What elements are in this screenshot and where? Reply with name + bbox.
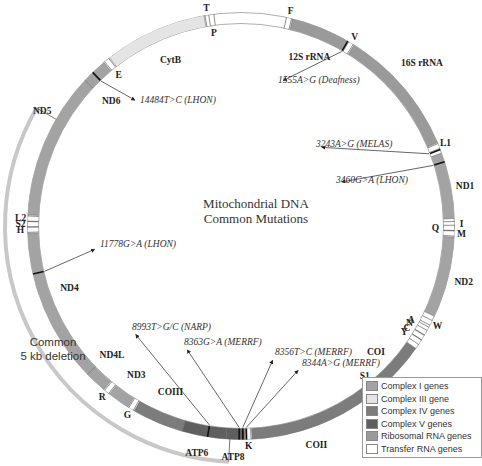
legend: Complex I genesComplex III geneComplex I… bbox=[362, 377, 482, 458]
mutation-label: 8356T>C (MERRF) bbox=[275, 347, 352, 358]
trna-e bbox=[108, 63, 111, 66]
trna-label-i: I bbox=[460, 219, 464, 229]
legend-item-trna: Transfer RNA genes bbox=[366, 443, 478, 456]
trna-f bbox=[286, 23, 290, 24]
gene-label-12s-rrna: 12S rRNA bbox=[288, 52, 330, 62]
gene-label-nd4: ND4 bbox=[60, 283, 79, 293]
trna-label-m: M bbox=[457, 229, 466, 239]
gene-label-nd6: ND6 bbox=[102, 96, 121, 106]
legend-item-complex-v: Complex V genes bbox=[366, 418, 478, 431]
gene-label-atp6: ATP6 bbox=[185, 448, 208, 458]
trna-label-v: V bbox=[351, 32, 358, 42]
gene-label-cytb: CytB bbox=[160, 55, 182, 65]
legend-label: Complex III gene bbox=[381, 394, 449, 404]
trna-label-l1: L1 bbox=[440, 138, 451, 148]
gene-label-nd4l: ND4L bbox=[100, 350, 125, 360]
trna-v bbox=[346, 47, 350, 49]
gene-segment-cytb bbox=[113, 21, 205, 62]
trna-label-f: F bbox=[288, 6, 294, 16]
trna-label-g: G bbox=[124, 410, 132, 420]
deletion-label-line1: Common bbox=[30, 336, 77, 348]
trna-r bbox=[108, 386, 111, 389]
gene-segment-coii bbox=[252, 390, 369, 434]
diagram-title-line2: Common Mutations bbox=[204, 211, 308, 226]
mutation-label: 8363G>A (MERRF) bbox=[184, 337, 262, 348]
gene-label-nd5: ND5 bbox=[33, 106, 52, 116]
gene-label-nd3: ND3 bbox=[127, 370, 146, 380]
trna-w bbox=[425, 318, 427, 322]
gene-label-coii: COII bbox=[306, 440, 328, 450]
mutation-label: 3243A>G (MELAS) bbox=[315, 139, 392, 150]
legend-swatch bbox=[366, 431, 378, 441]
mutation-label: 8993T>G/C (NARP) bbox=[132, 322, 211, 333]
legend-item-rrna: Ribosomal RNA genes bbox=[366, 430, 478, 443]
mutation-arrow bbox=[246, 370, 298, 427]
gene-label-coiii: COIII bbox=[158, 387, 184, 397]
legend-item-complex-i: Complex I genes bbox=[366, 380, 478, 393]
trna-label-w: W bbox=[433, 321, 443, 331]
legend-swatch bbox=[366, 394, 378, 404]
gene-label-coi: COI bbox=[367, 347, 385, 357]
gene-segment-nd2 bbox=[430, 237, 449, 314]
legend-label: Complex V genes bbox=[381, 419, 452, 429]
legend-label: Ribosomal RNA genes bbox=[381, 431, 472, 441]
legend-swatch bbox=[366, 419, 378, 429]
legend-swatch bbox=[366, 406, 378, 416]
trna-n bbox=[420, 328, 422, 332]
legend-swatch bbox=[366, 381, 378, 391]
legend-item-complex-iii: Complex III gene bbox=[366, 393, 478, 406]
trna-c bbox=[417, 333, 419, 337]
trna-label-p: P bbox=[211, 28, 217, 38]
legend-swatch bbox=[366, 444, 378, 454]
gene-segment-nd6 bbox=[89, 67, 107, 84]
mutation-arrow bbox=[243, 360, 273, 427]
legend-label: Complex I genes bbox=[381, 381, 449, 391]
gene-segment-coiii bbox=[137, 406, 184, 426]
trna-label-k: K bbox=[245, 441, 253, 451]
mutation-label: 14484T>C (LHON) bbox=[140, 95, 216, 106]
trna-label-y: Y bbox=[401, 327, 408, 337]
mutation-arrow bbox=[187, 350, 239, 428]
mutation-label: 1555A>G (Deafness) bbox=[278, 75, 360, 86]
gene-segment-nd3 bbox=[113, 390, 131, 402]
trna-l1 bbox=[433, 146, 435, 150]
gene-label-nd1: ND1 bbox=[456, 181, 475, 191]
mutation-label: 8344A>G (MERRF) bbox=[302, 358, 380, 369]
legend-label: Complex IV genes bbox=[381, 406, 455, 416]
deletion-label-line2: 5 kb deletion bbox=[20, 350, 85, 362]
gene-label-16s-rrna: 16S rRNA bbox=[401, 58, 443, 68]
legend-item-complex-iv: Complex IV genes bbox=[366, 405, 478, 418]
mutation-label: 11778G>A (LHON) bbox=[100, 239, 176, 250]
trna-p bbox=[210, 20, 214, 21]
gene-segment-atp6 bbox=[184, 426, 227, 434]
trna-label-l2: L2 bbox=[15, 213, 26, 223]
gene-label-atp8: ATP8 bbox=[221, 452, 244, 462]
gene-label-nd2: ND2 bbox=[454, 277, 473, 287]
mutation-label: 3460G>A (LHON) bbox=[335, 175, 408, 186]
trna-label-q: Q bbox=[432, 223, 439, 233]
gene-segment-nd5 bbox=[33, 84, 89, 215]
gene-ring bbox=[28, 13, 455, 440]
trna-label-t: T bbox=[203, 3, 210, 13]
mutation-arrow bbox=[45, 249, 95, 271]
trna-label-r: R bbox=[99, 392, 106, 402]
trna-label-e: E bbox=[115, 70, 121, 80]
gene-segment-atp8 bbox=[226, 433, 244, 434]
trna-g bbox=[132, 403, 136, 405]
gene-segment-nd4l bbox=[91, 370, 107, 385]
legend-label: Transfer RNA genes bbox=[381, 444, 462, 454]
trna-y bbox=[414, 337, 416, 341]
diagram-title-line1: Mitochondrial DNA bbox=[203, 196, 309, 211]
